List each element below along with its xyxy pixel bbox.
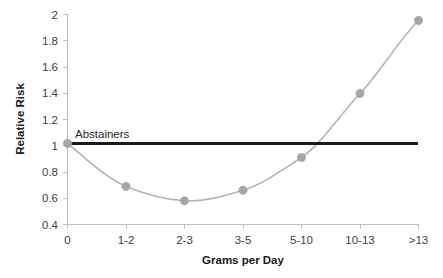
y-tick-label: 0.8 bbox=[42, 166, 58, 178]
risk-curve bbox=[68, 21, 419, 201]
y-tick-label: 1.6 bbox=[42, 61, 58, 73]
relative-risk-chart: 2 1.8 1.6 1.4 1.2 1 0.8 0.6 0.4 0 1-2 2-… bbox=[0, 0, 443, 278]
x-tick-label: 3-5 bbox=[235, 234, 252, 246]
data-point-marker bbox=[297, 153, 305, 161]
y-axis-tick-labels: 2 1.8 1.6 1.4 1.2 1 0.8 0.6 0.4 bbox=[42, 9, 59, 231]
x-axis-title: Grams per Day bbox=[202, 254, 284, 266]
data-point-marker bbox=[414, 16, 422, 24]
x-axis-ticks bbox=[68, 225, 419, 230]
x-tick-label: 0 bbox=[64, 234, 70, 246]
x-tick-label: 1-2 bbox=[118, 234, 135, 246]
x-tick-label: 10-13 bbox=[345, 234, 374, 246]
data-point-marker bbox=[180, 197, 188, 205]
y-tick-label: 1 bbox=[52, 140, 58, 152]
x-tick-label: >13 bbox=[409, 234, 429, 246]
y-tick-label: 0.6 bbox=[42, 192, 58, 204]
y-axis-ticks bbox=[63, 15, 68, 225]
y-tick-label: 0.4 bbox=[42, 219, 59, 231]
chart-canvas: 2 1.8 1.6 1.4 1.2 1 0.8 0.6 0.4 0 1-2 2-… bbox=[0, 0, 443, 278]
x-tick-label: 2-3 bbox=[176, 234, 193, 246]
data-point-markers bbox=[63, 16, 422, 205]
abstainers-label: Abstainers bbox=[75, 128, 130, 140]
y-tick-label: 1.4 bbox=[42, 87, 59, 99]
data-point-marker bbox=[356, 89, 364, 97]
y-axis-title: Relative Risk bbox=[14, 83, 26, 155]
data-point-marker bbox=[122, 182, 130, 190]
x-tick-label: 5-10 bbox=[290, 234, 313, 246]
x-axis-tick-labels: 0 1-2 2-3 3-5 5-10 10-13 >13 bbox=[64, 234, 428, 246]
data-point-marker bbox=[63, 139, 71, 147]
data-point-marker bbox=[239, 186, 247, 194]
y-tick-label: 2 bbox=[52, 9, 58, 21]
y-tick-label: 1.2 bbox=[42, 114, 58, 126]
y-tick-label: 1.8 bbox=[42, 35, 58, 47]
